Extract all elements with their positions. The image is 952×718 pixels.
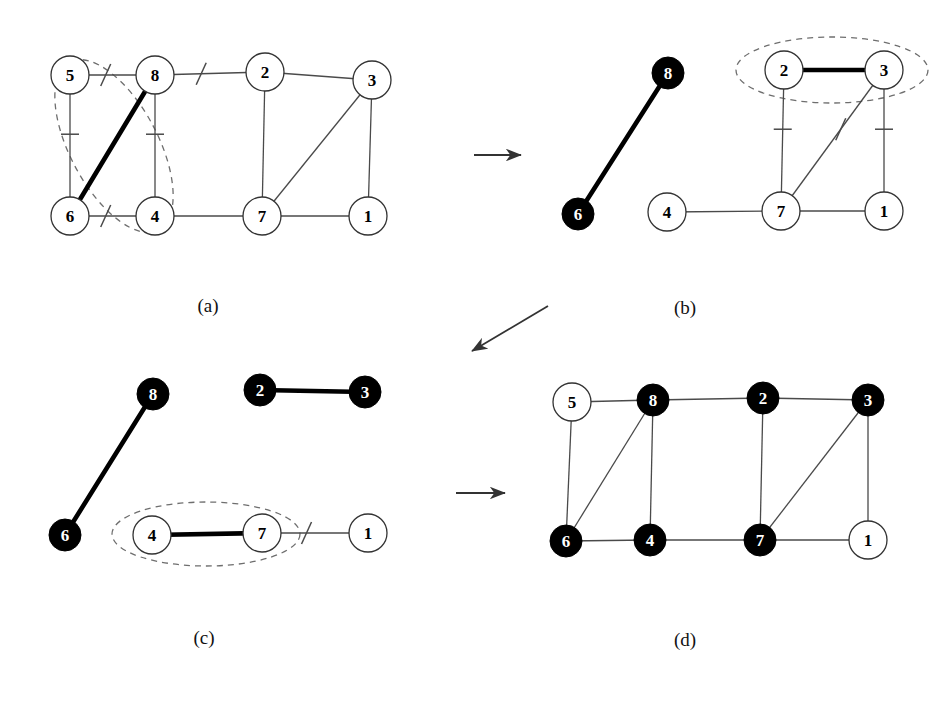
panel-caption-a: (a) [197, 295, 218, 317]
node-label: 2 [256, 381, 265, 400]
node-6[interactable]: 6 [49, 519, 81, 551]
node-3[interactable]: 3 [865, 51, 903, 89]
edge-6-8 [65, 394, 153, 535]
node-1[interactable]: 1 [865, 192, 903, 230]
node-4[interactable]: 4 [136, 197, 174, 235]
node-label: 7 [258, 524, 267, 543]
node-label: 6 [562, 532, 571, 551]
node-label: 8 [151, 66, 160, 85]
node-5[interactable]: 5 [51, 56, 89, 94]
node-8[interactable]: 8 [637, 384, 669, 416]
node-label: 6 [574, 205, 583, 224]
edge-mark-slash [836, 118, 846, 140]
node-label: 4 [663, 203, 672, 222]
node-7[interactable]: 7 [243, 197, 281, 235]
graph-figure-canvas: 582364718236471823647158236471 (a)(b)(c)… [0, 0, 952, 718]
edge-5-6 [566, 402, 572, 541]
node-label: 1 [880, 202, 889, 221]
node-1[interactable]: 1 [349, 514, 387, 552]
node-label: 1 [364, 207, 373, 226]
node-label: 8 [664, 64, 673, 83]
panel-a: 58236471 [31, 41, 391, 250]
node-label: 2 [759, 389, 768, 408]
panel-labels-layer: (a)(b)(c)(d) [193, 295, 696, 651]
node-label: 2 [780, 61, 789, 80]
arrows-layer [456, 155, 548, 493]
edge-3-1 [368, 80, 372, 216]
node-8[interactable]: 8 [136, 56, 174, 94]
panel-b: 8236471 [562, 37, 928, 231]
node-3[interactable]: 3 [349, 376, 381, 408]
edge-3-7 [781, 70, 884, 211]
edge-8-6 [566, 400, 653, 541]
node-label: 5 [66, 66, 75, 85]
node-label: 4 [151, 207, 160, 226]
node-8[interactable]: 8 [652, 57, 684, 89]
node-4[interactable]: 4 [648, 193, 686, 231]
node-7[interactable]: 7 [762, 192, 800, 230]
node-1[interactable]: 1 [349, 197, 387, 235]
node-label: 6 [61, 526, 70, 545]
node-label: 8 [649, 391, 658, 410]
node-8[interactable]: 8 [137, 378, 169, 410]
node-label: 5 [568, 393, 577, 412]
node-label: 7 [756, 531, 765, 550]
node-label: 3 [361, 383, 370, 402]
node-6[interactable]: 6 [51, 197, 89, 235]
node-label: 4 [148, 526, 157, 545]
node-label: 3 [880, 61, 889, 80]
transition-arrow-b-to-c [472, 306, 548, 351]
panel-caption-c: (c) [193, 627, 214, 649]
edge-3-7 [760, 400, 868, 540]
node-label: 3 [368, 71, 377, 90]
panel-d: 58236471 [550, 382, 887, 559]
edge-8-2 [653, 398, 763, 400]
node-2[interactable]: 2 [765, 51, 803, 89]
node-6[interactable]: 6 [562, 198, 594, 230]
node-3[interactable]: 3 [852, 384, 884, 416]
node-label: 4 [646, 531, 655, 550]
node-label: 6 [66, 207, 75, 226]
node-7[interactable]: 7 [243, 514, 281, 552]
node-label: 8 [149, 385, 158, 404]
node-3[interactable]: 3 [353, 61, 391, 99]
edge-6-8 [70, 75, 155, 216]
node-2[interactable]: 2 [244, 374, 276, 406]
edge-2-7 [262, 72, 265, 216]
edge-3-7 [262, 80, 372, 216]
panel-caption-b: (b) [674, 297, 696, 319]
node-4[interactable]: 4 [634, 524, 666, 556]
panel-c: 8236471 [49, 374, 387, 566]
node-label: 3 [864, 391, 873, 410]
node-label: 1 [864, 531, 873, 550]
node-4[interactable]: 4 [133, 516, 171, 554]
panels-layer: 582364718236471823647158236471 [31, 37, 928, 566]
node-7[interactable]: 7 [744, 524, 776, 556]
edge-6-8 [578, 73, 668, 214]
node-1[interactable]: 1 [849, 521, 887, 559]
edge-8-4 [650, 400, 653, 540]
node-label: 1 [364, 524, 373, 543]
node-2[interactable]: 2 [747, 382, 779, 414]
node-2[interactable]: 2 [246, 53, 284, 91]
edge-2-7 [781, 70, 784, 211]
panel-caption-d: (d) [674, 629, 696, 651]
node-6[interactable]: 6 [550, 525, 582, 557]
node-5[interactable]: 5 [553, 383, 591, 421]
node-label: 7 [258, 207, 267, 226]
node-label: 2 [261, 63, 270, 82]
node-label: 7 [777, 202, 786, 221]
edge-2-7 [760, 398, 763, 540]
figure-container: 582364718236471823647158236471 (a)(b)(c)… [0, 0, 952, 718]
